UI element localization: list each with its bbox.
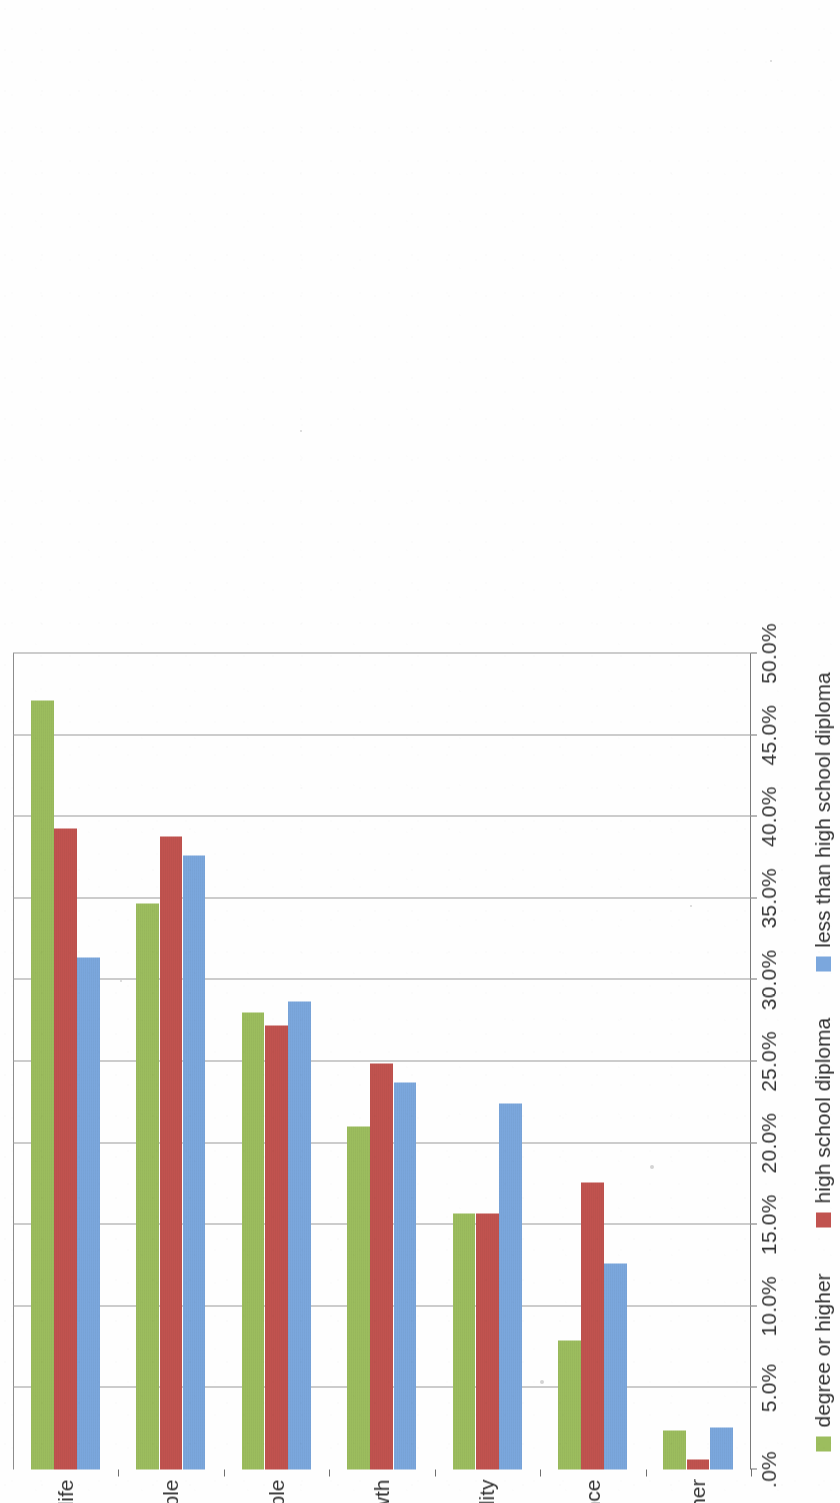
category-axis-label: science is a life's opportunity for youn… bbox=[265, 1479, 289, 1503]
bar bbox=[160, 836, 183, 1469]
bar bbox=[54, 828, 77, 1469]
bar-group bbox=[118, 653, 223, 1469]
bar bbox=[31, 700, 54, 1469]
bar bbox=[499, 1103, 522, 1469]
plot-area bbox=[13, 653, 751, 1469]
bar bbox=[710, 1427, 733, 1469]
category-axis-labels: science improves the quality of lifescie… bbox=[13, 1469, 751, 1503]
category-axis-label: science improves the quality of life bbox=[54, 1479, 78, 1503]
bar bbox=[347, 1126, 370, 1469]
rotated-chart-wrapper: .0%5.0%10.0%15.0%20.0%25.0%30.0%35.0%40.… bbox=[0, 0, 840, 1503]
chart-area: .0%5.0%10.0%15.0%20.0%25.0%30.0%35.0%40.… bbox=[0, 0, 840, 1503]
bar-group bbox=[435, 653, 540, 1469]
bar bbox=[453, 1213, 476, 1469]
category-axis-label: today I discovered a new way of seeing s… bbox=[581, 1479, 605, 1503]
bar bbox=[370, 1063, 393, 1469]
legend-label: high school diploma bbox=[811, 1017, 835, 1203]
value-axis-tick-label: 5.0% bbox=[757, 1363, 781, 1412]
bar-group bbox=[13, 653, 118, 1469]
legend-swatch bbox=[816, 1212, 831, 1227]
chart-legend: degree or higherhigh school diplomaless … bbox=[806, 653, 840, 1469]
bar-group bbox=[540, 653, 645, 1469]
value-axis-tick-label: 35.0% bbox=[757, 868, 781, 929]
bar-group bbox=[224, 653, 329, 1469]
bar-group bbox=[646, 653, 751, 1469]
legend-item: high school diploma bbox=[811, 1017, 835, 1227]
legend-swatch bbox=[816, 1436, 831, 1451]
bar-group bbox=[329, 653, 434, 1469]
bar bbox=[558, 1340, 581, 1469]
category-axis-label: science needs more equal opportun ties f… bbox=[159, 1479, 183, 1503]
bar bbox=[663, 1430, 686, 1469]
category-axis-label: ordinary people can achieve extraordinar… bbox=[370, 1479, 394, 1503]
value-axis-tick-label: 25.0% bbox=[757, 1031, 781, 1092]
value-axis-tick-label: 50.0% bbox=[757, 623, 781, 684]
value-axis-tick-label: 45.0% bbox=[757, 704, 781, 765]
legend-label: degree or higher bbox=[811, 1273, 835, 1427]
category-axis-label: science needs more gender equality bbox=[475, 1479, 499, 1503]
bar bbox=[476, 1213, 499, 1469]
value-axis-tick-label: 20.0% bbox=[757, 1112, 781, 1173]
bar bbox=[604, 1263, 627, 1469]
legend-label: less than high school diploma bbox=[811, 672, 835, 948]
bar bbox=[136, 903, 159, 1469]
bar bbox=[394, 1082, 417, 1469]
legend-item: degree or higher bbox=[811, 1273, 835, 1451]
bar bbox=[77, 957, 100, 1469]
bar bbox=[242, 1012, 265, 1469]
bar bbox=[288, 1001, 311, 1469]
value-axis-tick-label: 10.0% bbox=[757, 1276, 781, 1337]
value-axis-tick-label: .0% bbox=[757, 1451, 781, 1488]
bar bbox=[687, 1459, 710, 1469]
value-axis-labels: .0%5.0%10.0%15.0%20.0%25.0%30.0%35.0%40.… bbox=[751, 653, 811, 1469]
category-axis-tick bbox=[751, 1469, 752, 1476]
scanned-page: .0%5.0%10.0%15.0%20.0%25.0%30.0%35.0%40.… bbox=[0, 0, 840, 1503]
category-axis-label: other bbox=[686, 1479, 710, 1503]
value-axis-tick-label: 30.0% bbox=[757, 949, 781, 1010]
bar bbox=[265, 1025, 288, 1469]
value-axis-tick-label: 40.0% bbox=[757, 786, 781, 847]
bar bbox=[183, 855, 206, 1469]
legend-swatch bbox=[816, 956, 831, 971]
bar bbox=[581, 1182, 604, 1469]
value-axis-tick-label: 15.0% bbox=[757, 1194, 781, 1255]
legend-item: less than high school diploma bbox=[811, 672, 835, 972]
